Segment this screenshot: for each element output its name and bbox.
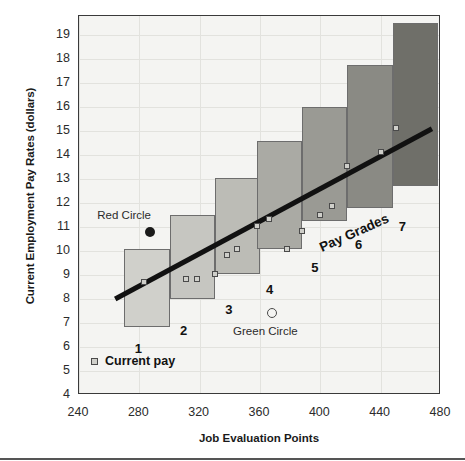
red-circle-marker [145, 227, 155, 237]
legend-marker-icon [91, 358, 98, 365]
x-tick-240: 240 [55, 406, 101, 418]
legend-label: Current pay [105, 354, 175, 368]
current-pay-point [344, 163, 350, 169]
pay-grade-label-3: 3 [225, 303, 232, 316]
x-tick-440: 440 [357, 406, 403, 418]
current-pay-point [284, 246, 290, 252]
current-pay-point [329, 203, 335, 209]
plot-area: 1234567 Red Circle Green Circle Pay Grad… [78, 15, 440, 394]
y-tick-8: 8 [36, 292, 70, 304]
y-tick-10: 10 [36, 244, 70, 256]
y-axis-title: Current Employment Pay Rates (dollars) [24, 16, 36, 376]
x-tick-360: 360 [236, 406, 282, 418]
current-pay-point [266, 216, 272, 222]
pay-grade-label-4: 4 [266, 283, 273, 296]
y-tick-19: 19 [36, 28, 70, 40]
current-pay-point [141, 279, 147, 285]
legend: Current pay [91, 354, 175, 368]
x-tick-320: 320 [176, 406, 222, 418]
x-tick-400: 400 [296, 406, 342, 418]
y-tick-11: 11 [36, 220, 70, 232]
pay-grade-label-2: 2 [180, 324, 187, 337]
current-pay-point [393, 125, 399, 131]
x-axis-title: Job Evaluation Points [78, 432, 440, 444]
y-tick-18: 18 [36, 52, 70, 64]
x-tick-480: 480 [417, 406, 463, 418]
y-tick-17: 17 [36, 76, 70, 88]
y-tick-12: 12 [36, 196, 70, 208]
current-pay-point [234, 246, 240, 252]
y-tick-7: 7 [36, 316, 70, 328]
chart-canvas: Current Employment Pay Rates (dollars) J… [0, 0, 465, 461]
y-tick-4: 4 [36, 388, 70, 400]
current-pay-point [183, 276, 189, 282]
x-tick-280: 280 [115, 406, 161, 418]
red-circle-label: Red Circle [97, 209, 151, 221]
current-pay-point [378, 149, 384, 155]
y-tick-9: 9 [36, 268, 70, 280]
pay-grade-label-7: 7 [399, 220, 406, 233]
y-tick-6: 6 [36, 340, 70, 352]
y-tick-15: 15 [36, 124, 70, 136]
current-pay-point [299, 228, 305, 234]
current-pay-point [224, 252, 230, 258]
y-tick-14: 14 [36, 148, 70, 160]
footer-rule [0, 458, 465, 460]
current-pay-point [212, 271, 218, 277]
y-tick-13: 13 [36, 172, 70, 184]
current-pay-point [254, 223, 260, 229]
green-circle-label: Green Circle [233, 325, 298, 337]
current-pay-point [194, 276, 200, 282]
y-tick-5: 5 [36, 364, 70, 376]
pay-grade-label-5: 5 [311, 261, 318, 274]
current-pay-point [317, 212, 323, 218]
y-tick-16: 16 [36, 100, 70, 112]
